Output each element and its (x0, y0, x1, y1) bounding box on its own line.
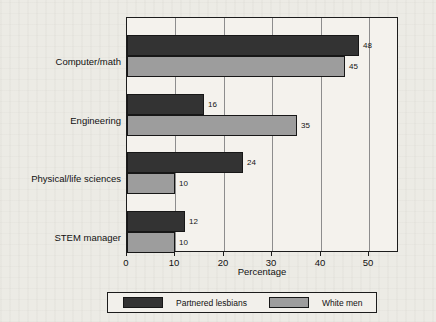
legend-entry-partnered-lesbians[interactable]: Partnered lesbians (123, 293, 247, 312)
bar-value-stem-manager-white-men: 10 (179, 232, 188, 253)
bar-value-engineering-white-men: 35 (301, 115, 310, 136)
y-axis-label-engineering: Engineering (1, 115, 121, 126)
x-tick-0 (126, 252, 127, 256)
x-tick-30 (271, 252, 272, 256)
x-axis-title: Percentage (126, 266, 398, 277)
x-tick-40 (320, 252, 321, 256)
legend-label-white-men: White men (322, 298, 363, 308)
bar-value-computer-math-partnered-lesbians: 48 (363, 35, 372, 56)
y-axis-category-labels: Computer/math Engineering Physical/life … (0, 17, 121, 252)
chart-legend: Partnered lesbians White men (107, 292, 377, 313)
bar-value-physical-life-sciences-white-men: 10 (179, 173, 188, 194)
x-tick-10 (174, 252, 175, 256)
bar-value-stem-manager-partnered-lesbians: 12 (189, 211, 198, 232)
bar-computer-math-partnered-lesbians[interactable] (127, 35, 359, 56)
y-axis-label-computer-math: Computer/math (1, 56, 121, 67)
bar-physical-life-sciences-partnered-lesbians[interactable] (127, 152, 243, 173)
bar-stem-manager-white-men[interactable] (127, 232, 175, 253)
bar-chart-figure: Computer/math Engineering Physical/life … (0, 0, 436, 322)
legend-label-partnered-lesbians: Partnered lesbians (176, 298, 247, 308)
bar-engineering-partnered-lesbians[interactable] (127, 94, 204, 115)
bar-value-computer-math-white-men: 45 (349, 56, 358, 77)
legend-entry-white-men[interactable]: White men (269, 293, 363, 312)
x-tick-50 (368, 252, 369, 256)
bar-physical-life-sciences-white-men[interactable] (127, 173, 175, 194)
legend-swatch-partnered-lesbians (123, 297, 163, 308)
y-axis-label-physical-life-sciences: Physical/life sciences (1, 173, 121, 184)
bar-value-engineering-partnered-lesbians: 16 (208, 94, 217, 115)
bar-engineering-white-men[interactable] (127, 115, 297, 136)
legend-swatch-white-men (269, 297, 309, 308)
bar-stem-manager-partnered-lesbians[interactable] (127, 211, 185, 232)
y-axis-label-stem-manager: STEM manager (1, 232, 121, 243)
bar-computer-math-white-men[interactable] (127, 56, 345, 77)
x-tick-20 (223, 252, 224, 256)
plot-area: 48 45 16 35 24 10 12 10 (126, 17, 398, 252)
bar-value-physical-life-sciences-partnered-lesbians: 24 (247, 152, 256, 173)
